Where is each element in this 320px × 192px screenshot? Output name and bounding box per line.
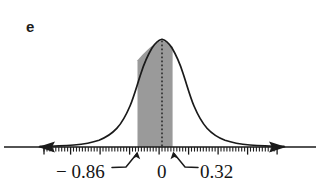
axis-label-upper-bound: 0.32 — [200, 162, 233, 181]
normal-curve-figure: e — [0, 0, 320, 192]
axis-label-mean: 0 — [157, 162, 167, 181]
callout-leader-left — [112, 154, 137, 168]
axis-label-lower-bound: − 0.86 — [56, 162, 105, 181]
shaded-area — [138, 41, 173, 148]
callout-arrowhead-right — [171, 152, 179, 160]
callout-leader-right — [174, 154, 198, 168]
callout-arrowhead-left — [133, 152, 141, 160]
